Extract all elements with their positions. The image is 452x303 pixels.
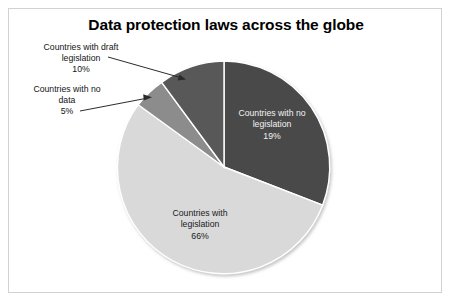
slice-label-legislation-value: 66% — [144, 231, 256, 242]
slice-label-legislation-line1: Countries with — [144, 208, 256, 219]
callout-draft-value: 10% — [22, 64, 140, 75]
callout-nodata-line2: data — [8, 95, 126, 106]
slice-label-no-legislation-line1: Countries with no — [216, 108, 328, 119]
slice-label-no-legislation: Countries with no legislation 19% — [216, 108, 328, 142]
slice-label-legislation-line2: legislation — [144, 219, 256, 230]
callout-draft-legislation: Countries with draft legislation 10% — [22, 42, 140, 75]
callout-nodata-line1: Countries with no — [8, 84, 126, 95]
slice-label-no-legislation-line2: legislation — [216, 119, 328, 130]
slice-label-no-legislation-value: 19% — [216, 131, 328, 142]
callout-no-data: Countries with no data 5% — [8, 84, 126, 117]
callout-draft-line1: Countries with draft — [22, 42, 140, 53]
callout-nodata-value: 5% — [8, 106, 126, 117]
slice-label-legislation: Countries with legislation 66% — [144, 208, 256, 242]
callout-draft-line2: legislation — [22, 53, 140, 64]
chart-page: Data protection laws across the globe — [0, 0, 452, 303]
